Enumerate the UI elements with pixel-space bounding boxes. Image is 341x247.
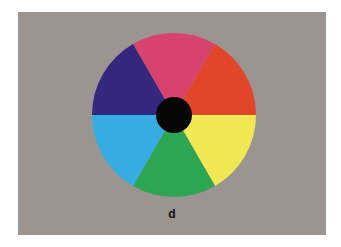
figure-panel: d — [18, 12, 326, 235]
color-wheel — [18, 12, 326, 235]
figure-label: d — [18, 207, 326, 221]
center-dot — [156, 97, 192, 133]
